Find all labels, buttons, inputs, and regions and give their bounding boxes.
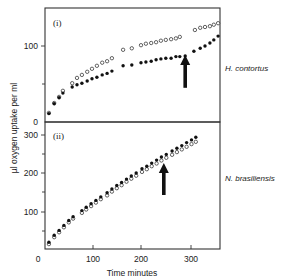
data-point [165,156,168,159]
data-point [194,140,197,143]
data-point [139,44,142,47]
data-point [105,72,108,75]
data-point [194,136,197,139]
y-tick-label-ii-200: 200 [24,168,38,178]
y-tick-label-i-100: 100 [24,41,38,51]
data-point [130,174,133,177]
data-point [180,148,183,151]
data-point [105,60,108,63]
arrow-icon-panel-i [180,55,190,88]
data-point [180,144,183,147]
data-point [144,60,147,63]
data-point [208,25,211,28]
panel-ii-y-ticks [41,135,45,231]
data-point [125,177,128,180]
data-point [71,82,74,85]
data-point [144,42,147,45]
data-point [61,91,64,94]
data-point [160,155,163,158]
data-point [57,229,60,232]
data-point [130,47,133,50]
species-label-n-brasiliensis: N. brasiliensis [225,174,275,183]
data-point [150,161,153,164]
data-point [185,141,188,144]
data-point [140,170,143,173]
data-point [192,50,195,53]
x-tick-label-300: 300 [184,254,198,264]
data-point [170,153,173,156]
x-ticks [93,245,191,249]
data-point [47,241,50,244]
data-point [155,158,158,161]
data-point [75,83,78,86]
data-point [145,168,148,171]
panel-ii-frame [45,122,220,249]
data-point [67,219,70,222]
data-point [80,209,83,212]
data-point [105,191,108,194]
data-point [159,39,162,42]
data-point [164,38,167,41]
data-point [110,69,113,72]
data-point [140,167,143,170]
data-point [121,64,124,67]
data-point [80,82,83,85]
data-point [216,22,219,25]
data-point [139,61,142,64]
data-point [203,25,206,28]
data-point [199,26,202,29]
data-point [169,57,172,60]
data-point [101,61,104,64]
data-point [165,153,168,156]
data-point [47,112,50,115]
data-point [190,138,193,141]
data-point [190,142,193,145]
data-point [175,147,178,150]
data-point [185,145,188,148]
data-point [95,64,98,67]
y-tick-label-ii-300: 300 [24,130,38,140]
panel-label-i: (i) [53,18,62,28]
y-tick-label-i-0: 0 [33,117,38,127]
data-point [155,162,158,165]
data-point [75,76,78,79]
data-point [160,159,163,162]
data-point [154,41,157,44]
data-point [203,44,206,47]
data-point [174,55,177,58]
panel-i-open-points [47,22,220,115]
data-point [170,149,173,152]
data-point [89,202,92,205]
panel-label-ii: (ii) [53,131,64,141]
data-point [90,67,93,70]
data-point [86,70,89,73]
data-point [154,58,157,61]
y-tick-label-ii-100: 100 [24,207,38,217]
data-point [150,60,153,63]
species-label-h-contortus: H. contortus [225,64,268,73]
data-point [199,47,202,50]
arrow-icon-panel-ii [159,163,169,195]
data-point [110,57,113,60]
data-point [178,55,181,58]
data-point [57,96,60,99]
data-point [120,181,123,184]
data-point [150,41,153,44]
data-point [95,76,98,79]
data-point [62,224,65,227]
x-axis-title: Time minutes [107,268,158,278]
x-tick-label-200: 200 [134,254,148,264]
figure: 100 0 300 200 100 0 100 200 300 Time min… [0,0,287,280]
data-point [53,102,56,105]
data-point [130,63,133,66]
data-point [159,57,162,60]
data-point [99,195,102,198]
data-point [71,215,74,218]
y-axis-title: µl oxygen uptake per ml [9,83,19,174]
data-point [71,85,74,88]
data-point [178,35,181,38]
data-point [115,184,118,187]
panel-ii-open-points [47,140,197,246]
data-point [150,165,153,168]
data-point [90,77,93,80]
